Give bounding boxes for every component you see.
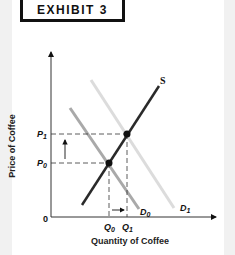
demand-curve-d0 <box>70 108 139 209</box>
svg-text:P1: P1 <box>37 129 47 140</box>
x-axis-label: Quantity of Coffee <box>70 236 190 246</box>
supply-curve <box>82 86 159 205</box>
svg-text:S: S <box>160 75 166 86</box>
svg-text:P0: P0 <box>37 158 47 169</box>
demand-curve-d1 <box>91 80 174 208</box>
supply-demand-chart: S D0 D1 P1 P0 Q0 Q1 0 <box>0 0 235 255</box>
svg-text:Q1: Q1 <box>122 222 133 233</box>
svg-text:0: 0 <box>43 214 48 224</box>
equilibrium-point-1 <box>124 131 131 138</box>
svg-text:D1: D1 <box>180 203 191 214</box>
svg-text:D0: D0 <box>140 207 151 218</box>
y-axis-label: Price of Coffee <box>7 106 19 186</box>
equilibrium-point-0 <box>106 160 113 167</box>
svg-text:Q0: Q0 <box>104 222 115 233</box>
